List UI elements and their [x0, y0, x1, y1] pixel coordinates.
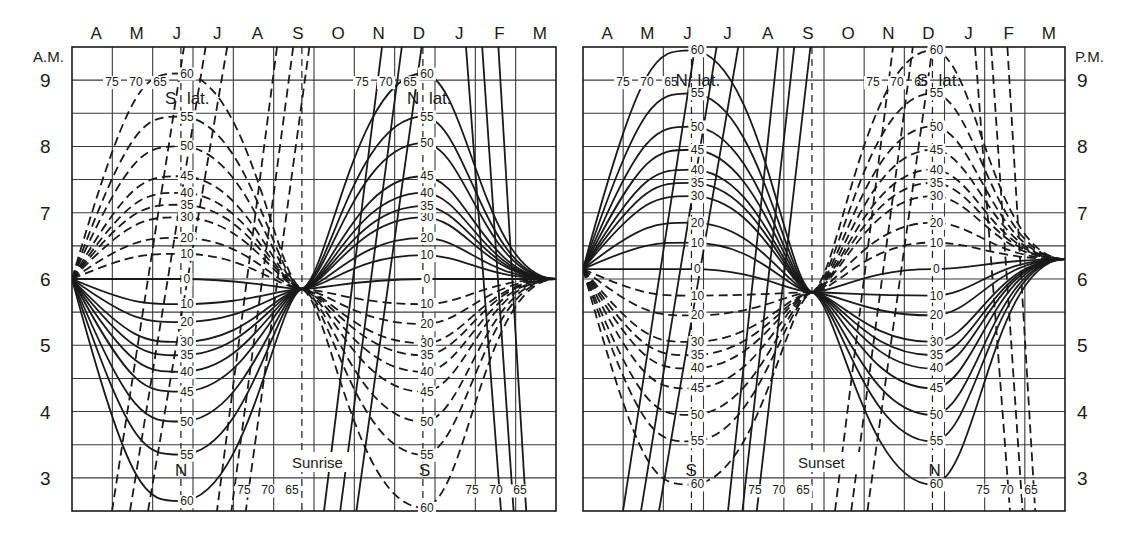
latitude-label: 65 [513, 483, 527, 497]
latitude-label: 10 [420, 248, 434, 262]
latitude-label: 10 [180, 247, 194, 261]
latitude-label: 35 [691, 176, 705, 190]
latitude-label: 20 [180, 315, 194, 329]
latitude-label: 50 [180, 415, 194, 429]
latitude-label: 55 [180, 448, 194, 462]
latitude-label: 70 [1000, 483, 1014, 497]
latitude-label: 75 [105, 75, 119, 89]
latitude-label: 65 [796, 483, 810, 497]
latitude-label: 55 [180, 110, 194, 124]
latitude-label: 40 [420, 365, 434, 379]
latitude-label: 20 [691, 308, 705, 322]
latitude-label: 75 [748, 483, 762, 497]
latitude-label: 45 [180, 385, 194, 399]
sunrise-sunset-charts: AMJJASONDJFM9876543A.M.00101020203030353… [0, 0, 1138, 538]
latitude-label: 60 [420, 501, 434, 515]
latitude-label: 70 [129, 75, 143, 89]
hour-label: 7 [1077, 203, 1088, 224]
hour-label: 5 [1077, 335, 1088, 356]
latitude-label: 35 [691, 348, 705, 362]
month-label: F [1004, 24, 1014, 43]
group-label: N [928, 461, 940, 480]
latitude-label: 70 [489, 483, 503, 497]
latitude-label: 10 [691, 236, 705, 250]
month-label: A [601, 24, 613, 43]
latitude-label: 35 [930, 348, 944, 362]
latitude-label: 20 [930, 216, 944, 230]
latitude-label: 0 [424, 272, 431, 286]
latitude-label: 45 [691, 381, 705, 395]
latitude-label: 0 [694, 262, 701, 276]
latitude-label: 75 [465, 483, 479, 497]
group-label: lat. [429, 89, 452, 108]
latitude-label: 45 [180, 169, 194, 183]
latitude-label: 35 [420, 348, 434, 362]
latitude-label: 75 [237, 483, 251, 497]
latitude-label: 50 [420, 136, 434, 150]
month-label: S [292, 24, 303, 43]
period-label: A.M. [33, 48, 64, 65]
month-label: M [640, 24, 654, 43]
group-label: lat. [187, 89, 210, 108]
month-label: O [841, 24, 854, 43]
month-label: M [129, 24, 143, 43]
latitude-label: 35 [180, 348, 194, 362]
latitude-label: 40 [180, 365, 194, 379]
group-label: S [419, 461, 430, 480]
latitude-label: 55 [420, 448, 434, 462]
latitude-label: 20 [930, 308, 944, 322]
hour-label: 7 [40, 203, 51, 224]
latitude-label: 75 [355, 75, 369, 89]
latitude-label: 0 [184, 272, 191, 286]
latitude-label: 10 [420, 297, 434, 311]
latitude-label: 55 [691, 434, 705, 448]
latitude-label: 60 [180, 67, 194, 81]
latitude-label: 35 [180, 198, 194, 212]
latitude-label: 60 [420, 67, 434, 81]
latitude-label: 65 [285, 483, 299, 497]
month-label: M [533, 24, 547, 43]
latitude-label: 20 [420, 231, 434, 245]
latitude-label: 50 [691, 408, 705, 422]
group-label: S [685, 461, 696, 480]
month-label: N [372, 24, 384, 43]
hour-label: 9 [40, 70, 51, 91]
latitude-label: 20 [420, 317, 434, 331]
hour-label: 4 [1077, 402, 1088, 423]
hour-label: 8 [40, 136, 51, 157]
latitude-label: 60 [180, 494, 194, 508]
latitude-label: 30 [930, 335, 944, 349]
group-label: lat. [938, 71, 961, 90]
latitude-label: 35 [930, 176, 944, 190]
month-label: J [173, 24, 182, 43]
latitude-label: 40 [691, 361, 705, 375]
latitude-label: 30 [180, 210, 194, 224]
month-label: F [494, 24, 504, 43]
latitude-label: 10 [930, 236, 944, 250]
latitude-label: 40 [180, 186, 194, 200]
month-label: M [1042, 24, 1056, 43]
hour-label: 6 [40, 269, 51, 290]
month-label: J [964, 24, 973, 43]
group-label: S [916, 71, 927, 90]
chart-canvas: AMJJASONDJFM9876543A.M.00101020203030353… [0, 0, 1138, 538]
month-label: O [332, 24, 345, 43]
month-label: D [413, 24, 425, 43]
latitude-label: 65 [403, 75, 417, 89]
month-label: A [252, 24, 264, 43]
latitude-label: 40 [691, 163, 705, 177]
latitude-label: 60 [691, 43, 705, 57]
latitude-label: 40 [930, 163, 944, 177]
latitude-label: 70 [379, 75, 393, 89]
group-label: lat. [697, 71, 720, 90]
latitude-label: 50 [930, 120, 944, 134]
latitude-label: 20 [180, 231, 194, 245]
group-label: N [407, 89, 419, 108]
chart-title: Sunrise [292, 454, 343, 471]
month-label: J [455, 24, 464, 43]
group-label: N [675, 71, 687, 90]
latitude-label: 50 [691, 120, 705, 134]
latitude-label: 45 [420, 385, 434, 399]
month-label: D [922, 24, 934, 43]
latitude-label: 50 [180, 139, 194, 153]
